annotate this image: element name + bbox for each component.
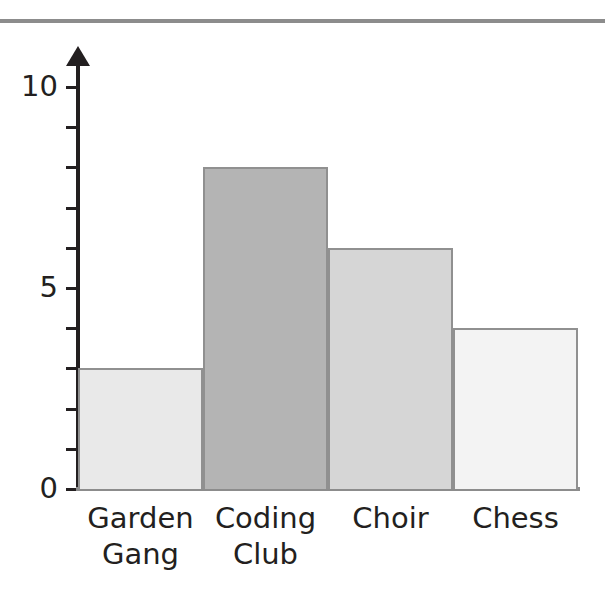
y-axis-label-text: 5: [10, 273, 58, 302]
y-axis-label-text: 10: [10, 72, 58, 101]
y-axis-tick: [66, 327, 80, 330]
bar-chart-figure: 1050 Garden GangCoding ClubChoirChess: [0, 0, 605, 601]
bar: [78, 368, 203, 489]
x-axis-category-label: Garden Gang: [78, 500, 203, 572]
bar: [328, 248, 453, 489]
y-axis-tick: [66, 287, 80, 290]
x-axis-category-label: Chess: [453, 500, 578, 536]
bar: [203, 167, 328, 489]
y-axis-tick: [66, 166, 80, 169]
y-axis-tick: [66, 207, 80, 210]
y-axis-arrow-icon: [66, 46, 90, 66]
y-axis-tick: [66, 126, 80, 129]
bar: [453, 328, 578, 489]
x-axis-category-label: Choir: [328, 500, 453, 536]
y-axis-tick: [66, 247, 80, 250]
y-axis-label-text: 0: [10, 474, 58, 503]
y-axis-tick: [66, 86, 80, 89]
plot-area: 1050 Garden GangCoding ClubChoirChess: [0, 0, 605, 601]
x-axis-category-label: Coding Club: [203, 500, 328, 572]
